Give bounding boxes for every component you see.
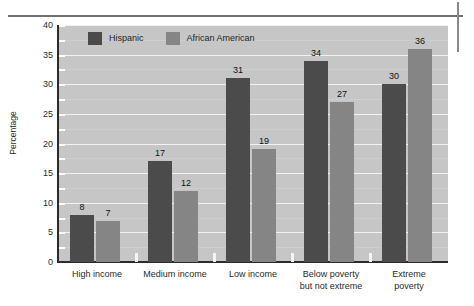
crop-mark-vertical-rule [457,2,459,52]
bar-value-label: 17 [147,149,173,158]
y-tick-label: 35 [7,50,53,59]
bar [148,161,172,262]
y-tick-label: 15 [7,169,53,178]
bar-value-label: 30 [381,72,407,81]
y-tick-label: 30 [7,80,53,89]
bar [174,191,198,262]
bar-value-label: 31 [225,66,251,75]
x-axis-label: Below povertybut not extreme [292,268,370,292]
y-tick-label: 40 [7,21,53,30]
bar-chart-figure: 0510152025303540 Percentage Hispanic Afr… [0,0,474,306]
x-axis-label: Medium income [136,268,214,280]
x-axis-label: High income [58,268,136,280]
bar [252,149,276,262]
bar [330,102,354,262]
bar-value-label: 12 [173,179,199,188]
y-tick-label: 10 [7,198,53,207]
x-axis-label-line: but not extreme [292,280,370,292]
y-tick-label: 5 [7,228,53,237]
bar [70,215,94,262]
y-axis-title: Percentage [8,98,18,168]
bar [96,221,120,262]
bar-value-label: 34 [303,49,329,58]
bar-value-label: 27 [329,90,355,99]
bar [304,61,328,262]
x-axis-label-line: poverty [370,280,448,292]
x-axis-label-line: Low income [214,268,292,280]
bar-value-label: 8 [69,203,95,212]
crop-mark-horizontal-rule [8,15,463,17]
bar [408,49,432,262]
bar-value-label: 19 [251,137,277,146]
x-axis-label-line: Extreme [370,268,448,280]
bar-group: 3119 [214,25,292,262]
bar-group: 3036 [370,25,448,262]
x-axis-label-line: Below poverty [292,268,370,280]
bar-value-label: 7 [95,209,121,218]
bar-group: 1712 [136,25,214,262]
x-axis-label-line: High income [58,268,136,280]
bar [382,84,406,262]
bar-group: 87 [58,25,136,262]
bar-value-label: 36 [407,37,433,46]
bar-group: 3427 [292,25,370,262]
x-axis-label-line: Medium income [136,268,214,280]
x-axis-label: Low income [214,268,292,280]
bars-layer: 871712311934273036 [58,25,448,262]
y-tick-label: 0 [7,258,53,267]
x-axis-label: Extremepoverty [370,268,448,292]
x-axis-category-labels: High incomeMedium incomeLow incomeBelow … [58,268,448,306]
bar [226,78,250,262]
